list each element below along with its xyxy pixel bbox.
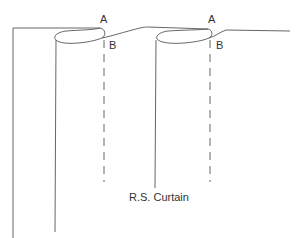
curtain-top-edge-2 (148, 27, 208, 29)
pleat-2-fold (157, 29, 212, 43)
curtain-caption: R.S. Curtain (129, 192, 189, 203)
pleat-1-inner-edge (55, 40, 56, 232)
point-b-label-1: B (109, 40, 116, 51)
pleat-2-inner-edge (155, 40, 156, 188)
point-b-label-2: B (216, 40, 223, 51)
curtain-top-edge-3 (209, 30, 290, 38)
pleat-1-fold (55, 28, 105, 43)
curtain-top-wave-1 (102, 27, 148, 38)
point-a-label-1: A (100, 14, 107, 25)
point-a-label-2: A (208, 14, 215, 25)
curtain-outer-edge (13, 28, 100, 238)
